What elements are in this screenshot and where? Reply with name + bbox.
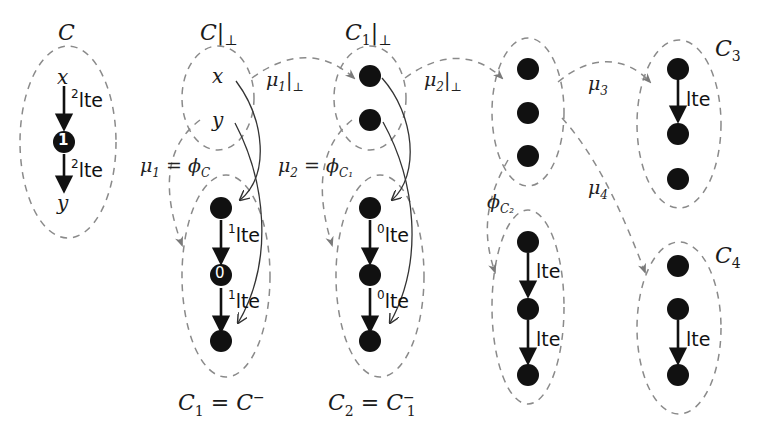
node-label-0: 0: [215, 266, 225, 281]
node-C1bot-b: [359, 109, 381, 131]
node-C4-a: [667, 255, 689, 277]
node-label-1: 1: [58, 133, 68, 148]
map-mu2-bot: μ2|⊥: [424, 70, 462, 93]
node-C2bot-c: [517, 145, 539, 167]
arrow-phiC2: [487, 160, 508, 272]
var-y-Cbot: y: [212, 110, 223, 130]
node-C2bot-a: [517, 58, 539, 80]
node-P-b: [517, 298, 539, 320]
edge-label-C-1: 2lte: [71, 90, 103, 110]
caption-C4: C4: [715, 245, 741, 270]
map-phiC2: ϕC₂: [487, 192, 514, 215]
var-y-C: y: [57, 193, 68, 213]
edge-label-C1-1: 1lte: [228, 225, 260, 245]
node-C4-c: [667, 364, 689, 386]
map-mu2-phiC1: μ2 = ϕC₁: [278, 156, 353, 179]
node-C3-a: [667, 58, 689, 80]
edge-label-C2-2: 0lte: [377, 291, 409, 311]
node-C2-c: [359, 330, 381, 352]
caption-C1-bot: C1|⊥: [345, 22, 391, 47]
caption-C-bot: C|⊥: [200, 22, 237, 47]
edge-label-P-1: lte: [536, 262, 560, 281]
node-C1-c: [210, 330, 232, 352]
node-C2-b: [359, 264, 381, 286]
embedding-arrows: [235, 78, 412, 323]
cluster-C1-bot: [334, 46, 406, 150]
map-mu3: μ3: [588, 74, 608, 97]
map-mu1-bot: μ1|⊥: [266, 70, 304, 93]
node-C2-a: [359, 197, 381, 219]
caption-C: C: [58, 22, 75, 44]
edge-label-C-2: 2lte: [71, 160, 103, 180]
node-C3-b: [667, 123, 689, 145]
edge-label-C2-1: 0lte: [377, 225, 409, 245]
edge-label-C1-2: 1lte: [228, 291, 260, 311]
edge-label-C3-1: lte: [686, 90, 710, 109]
var-x-Cbot: x: [212, 66, 223, 86]
diagram-canvas: 1 0 x y x y C C|⊥ C1|⊥ C3 C4 C1 = C− C2 …: [0, 0, 761, 429]
map-mu4: μ4: [588, 178, 608, 201]
node-C1-a: [210, 197, 232, 219]
cluster-C-bot: [182, 46, 254, 150]
node-C3-c: [667, 168, 689, 190]
edge-label-C4-1: lte: [686, 330, 710, 349]
node-P-c: [517, 364, 539, 386]
diagram-svg: [0, 0, 761, 429]
map-mu1-phiC: μ1 = ϕC: [140, 156, 210, 179]
var-x-C: x: [57, 67, 68, 87]
node-C2bot-b: [517, 102, 539, 124]
edge-label-P-2: lte: [536, 330, 560, 349]
caption-C1-eq: C1 = C−: [178, 390, 265, 418]
node-P-a: [517, 231, 539, 253]
node-C1bot-a: [359, 65, 381, 87]
caption-C3: C3: [715, 38, 741, 63]
caption-C2-eq: C2 = C−1: [328, 390, 416, 418]
node-C4-b: [667, 298, 689, 320]
